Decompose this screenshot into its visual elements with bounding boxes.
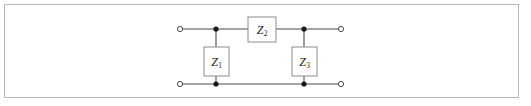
impedance-subscript-series: 2 [264, 29, 268, 38]
impedance-label-shunt-left: Z1 [204, 47, 229, 76]
impedance-label-shunt-right: Z3 [292, 47, 317, 76]
terminal-input-bottom [177, 81, 182, 86]
impedance-symbol-shunt-left: Z [211, 55, 218, 69]
node-top-left-dot [213, 26, 218, 31]
impedance-symbol-shunt-right: Z [299, 55, 306, 69]
terminal-output-top [338, 26, 343, 31]
terminal-output-bottom [338, 81, 343, 86]
node-top-right-dot [301, 26, 306, 31]
impedance-label-series: Z2 [248, 17, 276, 42]
impedance-subscript-shunt-right: 3 [306, 61, 310, 70]
impedance-subscript-shunt-left: 1 [218, 61, 222, 70]
circuit-diagram [0, 0, 531, 106]
figure-container: Z2 Z1 Z3 [0, 0, 531, 106]
node-bottom-right-dot [301, 81, 306, 86]
impedance-symbol-series: Z [257, 23, 264, 37]
node-bottom-left-dot [213, 81, 218, 86]
terminal-input-top [177, 26, 182, 31]
